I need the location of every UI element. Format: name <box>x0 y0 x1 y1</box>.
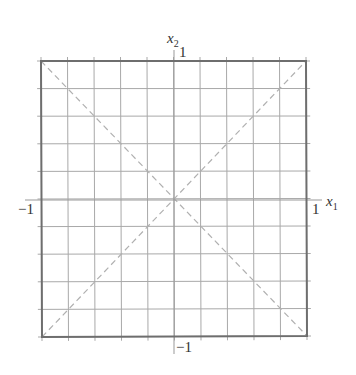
x-max-tick-label: 1 <box>312 201 320 217</box>
grid-diagram: x2 1 x1 1 −1 −1 <box>0 0 356 375</box>
grid-line-vertical <box>227 57 228 340</box>
y-min-tick-label: −1 <box>176 339 192 355</box>
grid-line-vertical <box>280 57 281 340</box>
grid-line-vertical <box>253 57 254 340</box>
grid-line-vertical <box>200 57 201 340</box>
x2-axis-label: x2 <box>166 30 179 49</box>
y-max-tick-label: 1 <box>179 44 187 60</box>
x1-axis-label: x1 <box>325 193 338 212</box>
x-min-tick-label: −1 <box>18 201 34 217</box>
